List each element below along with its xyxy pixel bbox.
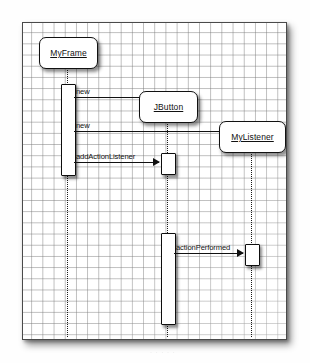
message-new-mylistener: new <box>74 131 243 132</box>
arrowhead-icon <box>237 249 244 257</box>
message-actionperformed: actionPerformed <box>174 253 243 254</box>
activation-bar-jbutton-add <box>161 153 176 175</box>
caption-ghost: · · · · · <box>150 349 210 356</box>
participant-box-jbutton[interactable]: JButton <box>139 91 198 123</box>
participant-label-myframe: MyFrame <box>50 48 87 58</box>
diagram-content: new new addActionListener actionPerforme… <box>23 23 286 339</box>
diagram-frame: new new addActionListener actionPerforme… <box>22 22 287 340</box>
message-line <box>74 131 243 132</box>
message-line <box>174 253 243 254</box>
message-line <box>74 162 159 163</box>
message-label: addActionListener <box>76 152 135 161</box>
participant-box-mylistener[interactable]: MyListener <box>219 121 286 153</box>
message-label: new <box>76 87 90 96</box>
participant-label-jbutton: JButton <box>154 102 184 112</box>
message-addactionlistener: addActionListener <box>74 162 159 163</box>
message-label: new <box>76 121 90 130</box>
diagram-page: new new addActionListener actionPerforme… <box>0 0 310 363</box>
participant-box-myframe[interactable]: MyFrame <box>39 37 98 69</box>
activation-bar-jbutton-click <box>161 233 176 325</box>
arrowhead-icon <box>153 158 160 166</box>
message-label: actionPerformed <box>176 243 230 252</box>
activation-bar-mylistener <box>245 244 260 266</box>
participant-label-mylistener: MyListener <box>231 132 274 142</box>
